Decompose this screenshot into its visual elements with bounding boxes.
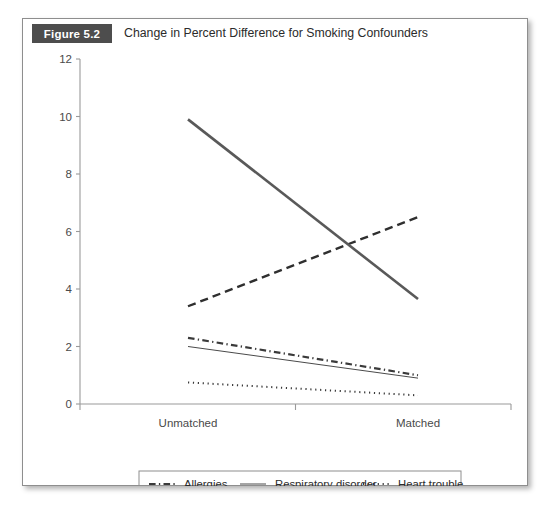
chart-plot-area: 024681012 UnmatchedMatched AllergiesResp… xyxy=(23,49,529,486)
figure-title: Change in Percent Difference for Smoking… xyxy=(124,24,428,43)
x-category-label-matched: Matched xyxy=(396,417,440,429)
y-tick-label: 4 xyxy=(66,283,73,295)
y-tick-label: 12 xyxy=(59,53,72,65)
y-tick-label: 10 xyxy=(59,111,72,123)
x-category-label-unmatched: Unmatched xyxy=(159,417,218,429)
series-line-measles xyxy=(188,217,418,306)
y-tick-label: 8 xyxy=(66,168,72,180)
figure-card: Figure 5.2 Change in Percent Difference … xyxy=(22,18,528,486)
series-line-respiratory-disorder xyxy=(188,347,418,379)
line-chart: 024681012 UnmatchedMatched AllergiesResp… xyxy=(23,49,529,486)
x-axis: UnmatchedMatched xyxy=(80,404,511,429)
y-tick-label: 2 xyxy=(66,341,72,353)
legend-label-heart-trouble: Heart trouble xyxy=(398,478,463,486)
figure-number-badge: Figure 5.2 xyxy=(32,24,112,43)
series-line-childhood-smoking xyxy=(188,119,418,299)
series-line-allergies xyxy=(188,338,418,375)
y-axis: 024681012 xyxy=(59,53,80,410)
legend-label-allergies: Allergies xyxy=(184,478,228,486)
data-series-group xyxy=(188,119,418,395)
y-tick-label: 6 xyxy=(66,226,72,238)
figure-header: Figure 5.2 Change in Percent Difference … xyxy=(23,19,527,46)
chart-legend: AllergiesRespiratory disorderHeart troub… xyxy=(139,471,463,486)
legend-label-respiratory-disorder: Respiratory disorder xyxy=(275,478,377,486)
y-tick-label: 0 xyxy=(66,398,72,410)
series-line-heart-trouble xyxy=(188,382,418,395)
